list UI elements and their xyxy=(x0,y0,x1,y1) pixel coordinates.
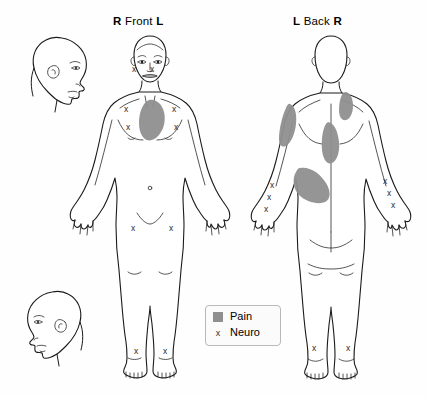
back-label-center: Back xyxy=(304,15,330,27)
legend-label-neuro: Neuro xyxy=(230,327,260,338)
body-pain-chart: R Front L L Back R xyxy=(0,0,429,397)
back-label-left: L xyxy=(293,15,300,27)
legend-item-pain: Pain xyxy=(213,311,252,322)
front-label-center: Front xyxy=(125,15,153,27)
head-profile-right-facing-icon xyxy=(31,37,86,112)
head-profile-left-facing-icon xyxy=(28,291,83,366)
front-label-right: L xyxy=(156,15,163,27)
front-label-left: R xyxy=(113,15,122,27)
pain-swatch-icon xyxy=(213,312,223,322)
back-label-right: R xyxy=(333,15,342,27)
front-view-label: R Front L xyxy=(113,15,163,27)
legend-item-neuro: x Neuro xyxy=(213,327,260,338)
legend: Pain x Neuro xyxy=(205,305,281,346)
back-view-label: L Back R xyxy=(293,15,342,27)
legend-label-pain: Pain xyxy=(230,311,252,322)
neuro-x-icon: x xyxy=(213,328,223,338)
